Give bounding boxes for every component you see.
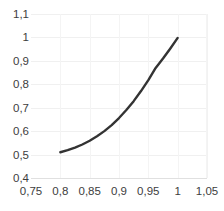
plot-right-border (207, 14, 208, 178)
curve-polyline (60, 38, 177, 152)
y-tick-label: 0,6 (2, 126, 29, 137)
x-tick-label: 0,8 (52, 185, 68, 197)
chart-container: 1,1 1 0,9 0,8 0,7 0,6 0,5 0,4 0,75 0,8 0… (0, 0, 224, 211)
y-tick-label: 1 (2, 32, 29, 43)
data-curve (31, 14, 207, 178)
y-tick-label: 1,1 (2, 9, 29, 20)
x-tick-label: 1,05 (196, 185, 218, 197)
y-tick-label: 0,7 (2, 103, 29, 114)
x-tick-label: 1 (174, 185, 180, 197)
x-tick-label: 0,75 (20, 185, 42, 197)
y-tick-label: 0,5 (2, 150, 29, 161)
y-tick-label: 0,4 (2, 173, 29, 184)
plot-area (31, 14, 207, 178)
x-tick-label: 0,85 (78, 185, 100, 197)
x-tick-label: 0,95 (137, 185, 159, 197)
y-tick-label: 0,9 (2, 56, 29, 67)
y-axis-tick-labels: 1,1 1 0,9 0,8 0,7 0,6 0,5 0,4 (0, 0, 29, 211)
x-axis-line (31, 178, 207, 179)
x-tick-label: 0,9 (111, 185, 127, 197)
y-tick-label: 0,8 (2, 79, 29, 90)
x-axis-tick-labels: 0,75 0,8 0,85 0,9 0,95 1 1,05 (0, 185, 224, 205)
